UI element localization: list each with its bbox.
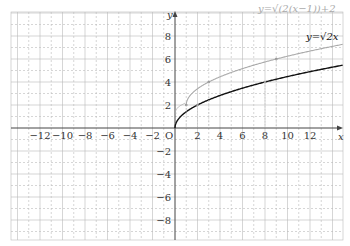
curve-shifted: [186, 44, 342, 105]
y-axis-label: y: [166, 9, 173, 20]
x-tick-label: −10: [52, 130, 73, 141]
y-tick-label: −4: [156, 169, 171, 180]
x-tick-label: −12: [29, 130, 50, 141]
x-tick-label: −4: [123, 130, 138, 141]
x-tick-label: −8: [78, 130, 93, 141]
grid: [11, 12, 343, 240]
x-tick-label: 2: [194, 130, 200, 141]
origin-label: O: [165, 130, 173, 141]
y-tick-label: 2: [165, 100, 171, 111]
x-tick-label: 4: [217, 130, 223, 141]
x-axis-arrow-icon: [337, 126, 343, 131]
tick-labels: xyO−12−10−8−6−4−224681012−8−6−4−22468: [29, 9, 344, 226]
translation-arrow-icon: [175, 103, 185, 114]
graph-canvas: xyO−12−10−8−6−4−224681012−8−6−4−22468 y=…: [0, 0, 350, 246]
x-axis-label: x: [338, 131, 344, 142]
x-tick-label: −2: [145, 130, 160, 141]
grid-border: [11, 12, 343, 240]
x-tick-label: 10: [281, 130, 294, 141]
y-tick-label: 8: [165, 31, 171, 42]
x-tick-label: 8: [262, 130, 268, 141]
x-tick-label: −6: [100, 130, 115, 141]
label-shifted: y=√(2(x−1))+2: [257, 3, 336, 14]
y-tick-label: 4: [165, 77, 171, 88]
axes: [11, 11, 343, 240]
curves: [175, 44, 343, 128]
x-tick-label: 12: [304, 130, 317, 141]
label-sqrt-2x: y=√2x: [305, 31, 339, 42]
y-tick-label: 6: [165, 54, 171, 65]
curve-sqrt-2x: [175, 65, 343, 128]
y-tick-label: −2: [156, 146, 171, 157]
x-tick-label: 6: [239, 130, 245, 141]
y-tick-label: −8: [156, 215, 171, 226]
y-tick-label: −6: [156, 192, 171, 203]
